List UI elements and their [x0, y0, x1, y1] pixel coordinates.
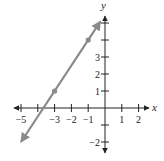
y-axis-label: y [100, 0, 106, 11]
x-axis-label: x [151, 101, 157, 113]
y-tick-label: −2 [89, 137, 100, 148]
x-tick-label: −2 [66, 114, 77, 125]
x-tick-label: −1 [83, 114, 94, 125]
x-tick-label: −5 [16, 114, 27, 125]
y-tick-label: 1 [95, 86, 100, 97]
x-tick-label: −3 [49, 114, 60, 125]
x-tick-label: 1 [119, 114, 124, 125]
y-tick-label: 3 [95, 52, 100, 63]
line-graph: xy−5−3−2−112−2123 [0, 0, 164, 161]
data-point [52, 88, 57, 93]
data-point [86, 37, 91, 42]
x-tick-label: 2 [136, 114, 141, 125]
tick-labels: xy−5−3−2−112−2123 [16, 0, 157, 148]
y-tick-label: 2 [95, 69, 100, 80]
axes [14, 16, 149, 153]
